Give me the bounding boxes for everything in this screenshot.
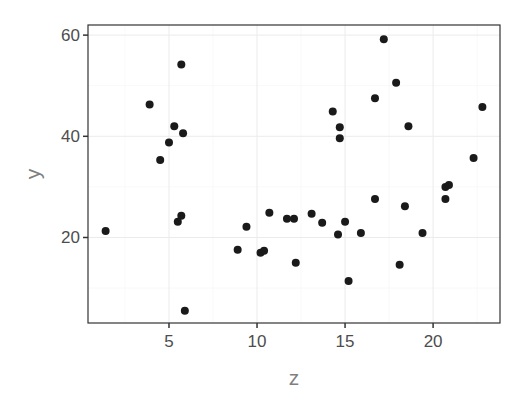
data-point bbox=[401, 202, 409, 210]
data-point bbox=[318, 219, 326, 227]
data-point bbox=[419, 229, 427, 237]
data-point bbox=[478, 103, 486, 111]
data-point bbox=[181, 307, 189, 315]
x-axis-title: z bbox=[289, 366, 300, 389]
data-point bbox=[470, 154, 478, 162]
data-point bbox=[177, 60, 185, 68]
data-point bbox=[234, 246, 242, 254]
y-axis-title: y bbox=[21, 168, 44, 179]
data-point bbox=[165, 138, 173, 146]
y-axis: 204060 bbox=[61, 26, 88, 247]
data-point bbox=[170, 122, 178, 130]
data-point bbox=[445, 181, 453, 189]
data-point bbox=[371, 195, 379, 203]
y-tick-label: 60 bbox=[61, 26, 80, 45]
x-tick-label: 20 bbox=[424, 332, 443, 351]
data-point bbox=[392, 79, 400, 87]
data-point bbox=[146, 100, 154, 108]
data-point bbox=[242, 223, 250, 231]
data-point bbox=[396, 261, 404, 269]
data-point bbox=[283, 215, 291, 223]
y-tick-label: 20 bbox=[61, 228, 80, 247]
data-point bbox=[265, 209, 273, 217]
data-point bbox=[371, 94, 379, 102]
data-point bbox=[380, 35, 388, 43]
data-point bbox=[290, 215, 298, 223]
data-point bbox=[441, 195, 449, 203]
data-point bbox=[292, 259, 300, 267]
data-point bbox=[334, 230, 342, 238]
scatter-chart: 5101520 204060 z y bbox=[0, 0, 520, 405]
data-point bbox=[260, 247, 268, 255]
data-point bbox=[341, 218, 349, 226]
data-point bbox=[336, 123, 344, 131]
data-point bbox=[336, 134, 344, 142]
data-point bbox=[404, 122, 412, 130]
plot-panel bbox=[88, 25, 500, 323]
data-point bbox=[102, 227, 110, 235]
data-point bbox=[177, 212, 185, 220]
data-point bbox=[329, 108, 337, 116]
x-tick-label: 15 bbox=[336, 332, 355, 351]
data-point bbox=[345, 277, 353, 285]
x-axis: 5101520 bbox=[164, 323, 442, 351]
y-tick-label: 40 bbox=[61, 127, 80, 146]
data-point bbox=[308, 210, 316, 218]
data-point bbox=[357, 229, 365, 237]
data-point bbox=[156, 156, 164, 164]
x-tick-label: 5 bbox=[164, 332, 173, 351]
x-tick-label: 10 bbox=[248, 332, 267, 351]
data-point bbox=[179, 129, 187, 137]
